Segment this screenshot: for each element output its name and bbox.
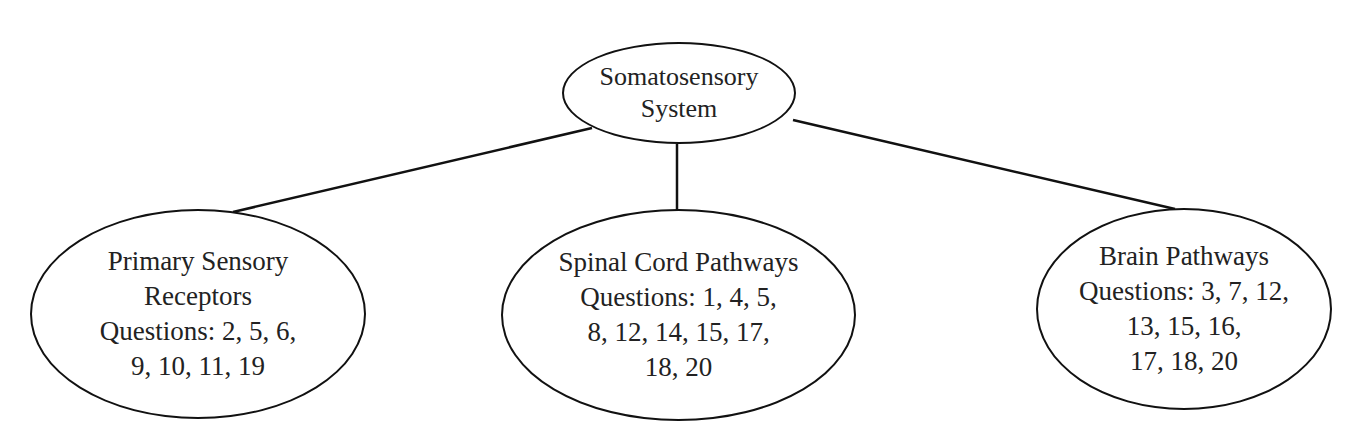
edge-root-to-primary-sensory-receptors (233, 128, 592, 212)
node-questions-line: 13, 15, 16, (1127, 309, 1242, 344)
node-questions-line: 9, 10, 11, 19 (131, 349, 265, 384)
node-label-line: Somatosensory (600, 61, 759, 93)
node-questions-line: Questions: 3, 7, 12, (1079, 274, 1289, 309)
edge-root-to-brain-pathways (793, 120, 1175, 209)
node-title-line: Brain Pathways (1099, 239, 1269, 274)
node-somatosensory-system: Somatosensory System (562, 42, 796, 144)
node-label-line: System (641, 93, 718, 125)
node-questions-line: 18, 20 (645, 350, 713, 385)
node-questions-line: 17, 18, 20 (1130, 344, 1238, 379)
node-title-line: Spinal Cord Pathways (559, 245, 799, 280)
node-title-line: Receptors (144, 279, 252, 314)
node-spinal-cord-pathways: Spinal Cord Pathways Questions: 1, 4, 5,… (501, 209, 856, 421)
node-title-line: Primary Sensory (108, 244, 289, 279)
node-questions-line: Questions: 2, 5, 6, (100, 314, 297, 349)
node-questions-line: 8, 12, 14, 15, 17, (587, 315, 769, 350)
node-brain-pathways: Brain Pathways Questions: 3, 7, 12, 13, … (1036, 208, 1332, 410)
node-questions-line: Questions: 1, 4, 5, (580, 280, 777, 315)
node-primary-sensory-receptors: Primary Sensory Receptors Questions: 2, … (30, 209, 366, 419)
